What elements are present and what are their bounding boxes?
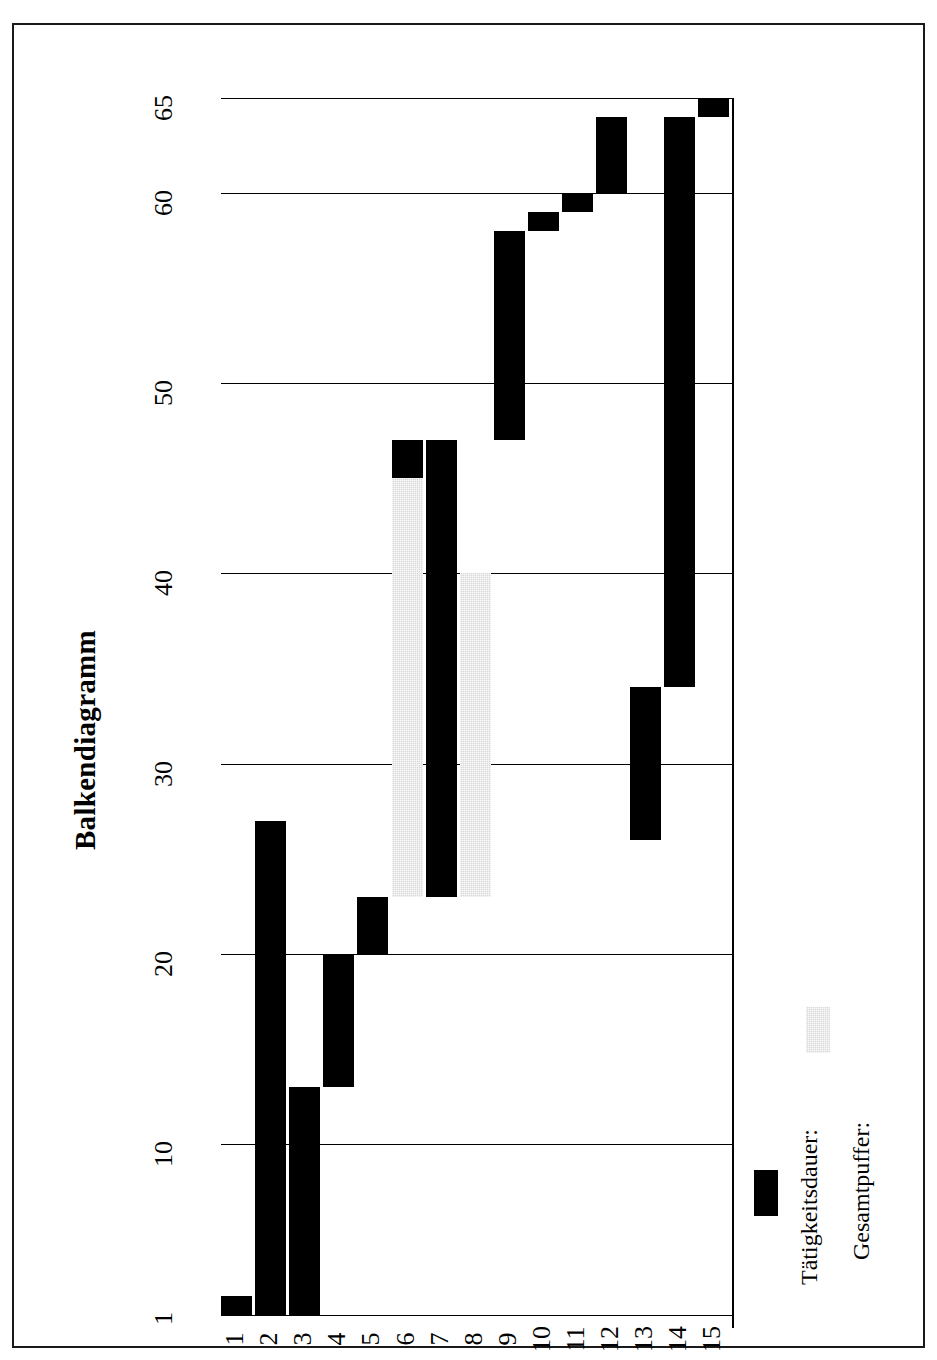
value-tick-label: 50 xyxy=(149,380,179,450)
gridline xyxy=(221,1315,733,1316)
duration-bar xyxy=(630,687,661,839)
category-tick-label: 15 xyxy=(697,1323,727,1355)
duration-bar xyxy=(562,193,593,212)
legend-label: Gesamtpuffer: xyxy=(848,1122,875,1260)
value-tick-label: 60 xyxy=(149,190,179,260)
category-axis: 123456789101112131415 xyxy=(221,1323,733,1360)
chart-page: Balkendiagramm 110203040506065 123456789… xyxy=(0,0,937,1360)
gridline xyxy=(221,954,733,955)
duration-bar xyxy=(426,440,457,896)
chart-legend: Tätigkeitsdauer:Gesamtpuffer: xyxy=(734,985,934,1355)
category-tick-label: 10 xyxy=(527,1323,557,1355)
category-tick-label: 12 xyxy=(595,1323,625,1355)
value-tick-label: 65 xyxy=(149,95,179,165)
value-tick-label: 10 xyxy=(149,1141,179,1211)
category-tick-label: 2 xyxy=(254,1323,284,1355)
duration-bar xyxy=(596,117,627,193)
category-tick-label: 11 xyxy=(561,1323,591,1355)
duration-bar xyxy=(664,117,695,687)
page-frame: Balkendiagramm 110203040506065 123456789… xyxy=(12,23,925,1348)
gridline xyxy=(221,193,733,194)
duration-bar xyxy=(528,212,559,231)
gridline xyxy=(221,383,733,384)
buffer-bar xyxy=(392,478,423,896)
legend-swatch xyxy=(806,1007,830,1053)
legend-label: Tätigkeitsdauer: xyxy=(796,1129,823,1285)
category-tick-label: 4 xyxy=(322,1323,352,1355)
duration-bar xyxy=(289,1087,320,1315)
duration-bar xyxy=(357,897,388,954)
category-tick-label: 3 xyxy=(288,1323,318,1355)
value-tick-label: 20 xyxy=(149,951,179,1021)
category-tick-label: 9 xyxy=(493,1323,523,1355)
gridline xyxy=(221,98,733,99)
duration-bar xyxy=(494,231,525,440)
value-tick-label: 30 xyxy=(149,761,179,831)
category-tick-label: 1 xyxy=(220,1323,250,1355)
category-tick-label: 5 xyxy=(356,1323,386,1355)
category-tick-label: 7 xyxy=(425,1323,455,1355)
value-tick-label: 1 xyxy=(149,1312,179,1360)
category-tick-label: 14 xyxy=(663,1323,693,1355)
category-tick-label: 8 xyxy=(459,1323,489,1355)
buffer-bar xyxy=(460,573,491,896)
legend-swatch xyxy=(754,1170,778,1216)
page-title: Balkendiagramm xyxy=(69,590,102,890)
category-tick-label: 6 xyxy=(391,1323,421,1355)
value-tick-label: 40 xyxy=(149,570,179,640)
duration-bar xyxy=(221,1296,252,1315)
duration-bar xyxy=(698,98,729,117)
duration-bar xyxy=(323,954,354,1087)
category-tick-label: 13 xyxy=(629,1323,659,1355)
duration-bar xyxy=(255,821,286,1315)
plot-area xyxy=(221,98,733,1315)
duration-bar xyxy=(392,440,423,478)
